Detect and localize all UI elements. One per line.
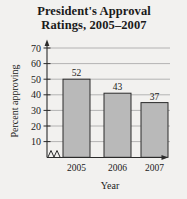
y-tick-label-40: 40 [31,89,41,100]
bar-value-label-2005: 52 [72,68,82,78]
bar-2006 [104,93,131,157]
y-axis-title: Percent approving [9,64,20,137]
x-axis-title: Year [101,180,120,191]
y-tick-label-50: 50 [31,74,41,85]
bar-value-label-2007: 37 [150,92,160,102]
chart-figure: President's Approval Ratings, 2005–2007 … [0,0,187,199]
y-axis-arrow-icon [45,40,50,47]
x-tick-label-2006: 2006 [108,163,127,173]
x-tick-label-2005: 2005 [67,163,86,173]
y-tick-label-10: 10 [31,136,41,147]
bar-2007 [141,103,168,158]
axis-break-icon [48,151,60,158]
bar-chart-plot: 52 43 37 70 60 50 40 30 20 10 2005 2 [0,0,187,199]
y-tick-label-60: 60 [31,58,41,69]
y-tick-label-20: 20 [31,121,41,132]
y-tick-label-70: 70 [31,43,41,54]
y-tick-label-30: 30 [31,105,41,116]
bar-value-label-2006: 43 [113,82,123,92]
bar-2005 [63,79,90,157]
x-tick-label-2007: 2007 [145,163,164,173]
